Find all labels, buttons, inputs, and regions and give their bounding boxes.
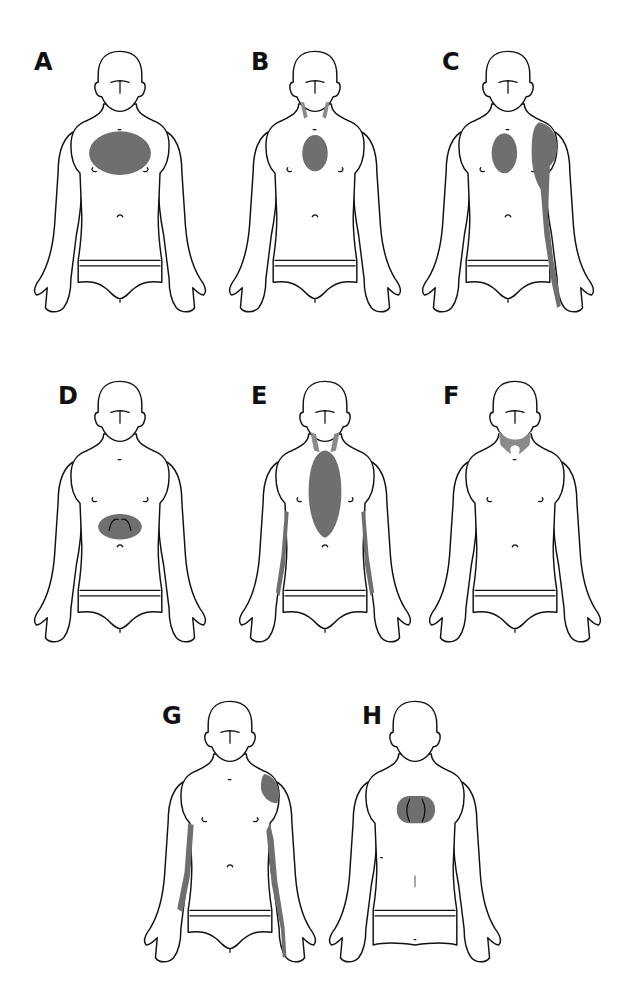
panel-f: F: [415, 360, 615, 670]
body-figure-front: [225, 360, 425, 670]
body-figure-front: [20, 30, 220, 340]
body-figure-front: [408, 30, 608, 340]
pain-zone-chest-wide: [89, 131, 151, 175]
panel-c: C: [408, 30, 608, 340]
panel-h: H: [315, 680, 515, 990]
body-figure-front: [130, 680, 330, 990]
body-figure-back: [315, 680, 515, 990]
body-figure-front: [415, 360, 615, 670]
panel-e: E: [225, 360, 425, 670]
panel-b: B: [215, 30, 415, 340]
body-figure-front: [20, 360, 220, 670]
panel-a: A: [20, 30, 220, 340]
panel-d: D: [20, 360, 220, 670]
body-figure-front: [215, 30, 415, 340]
pain-zone-interscapular: [397, 796, 435, 823]
pain-zone-chest-central: [302, 135, 327, 171]
pain-zone-chest-central: [492, 133, 517, 173]
panel-g: G: [130, 680, 330, 990]
pain-zone-epigastric: [98, 514, 142, 539]
